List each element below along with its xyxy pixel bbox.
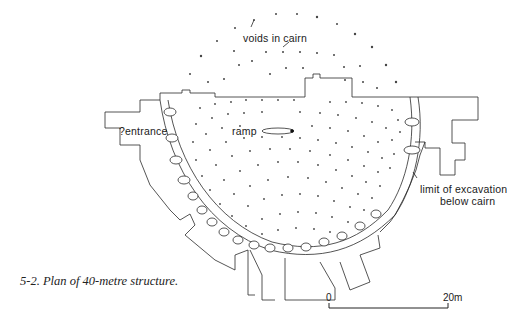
entrance-label: ?entrance [119,126,168,137]
inner-wall-ring [168,97,412,247]
scale-end-label: 20m [443,292,462,303]
post-dots [192,99,401,235]
ramp-label: ramp [232,126,257,137]
void-dots [189,13,397,89]
voids-in-cairn-label: voids in cairn [243,33,307,44]
scale-bar [329,303,448,308]
scale-start-label: 0 [326,292,332,303]
south-annex-3 [340,235,380,290]
below-cairn-label: below cairn [440,196,495,207]
figure-caption: 5-2. Plan of 40-metre structure. [20,274,178,289]
excavation-top-edge [182,74,478,175]
limit-of-excavation-line [380,142,425,232]
south-annex-1 [250,250,275,300]
limit-of-excavation-label: limit of excavation [420,184,507,195]
ramp-feature [262,128,294,134]
voids-pointer-left [251,20,254,27]
entrance-annex-outline [105,93,255,295]
